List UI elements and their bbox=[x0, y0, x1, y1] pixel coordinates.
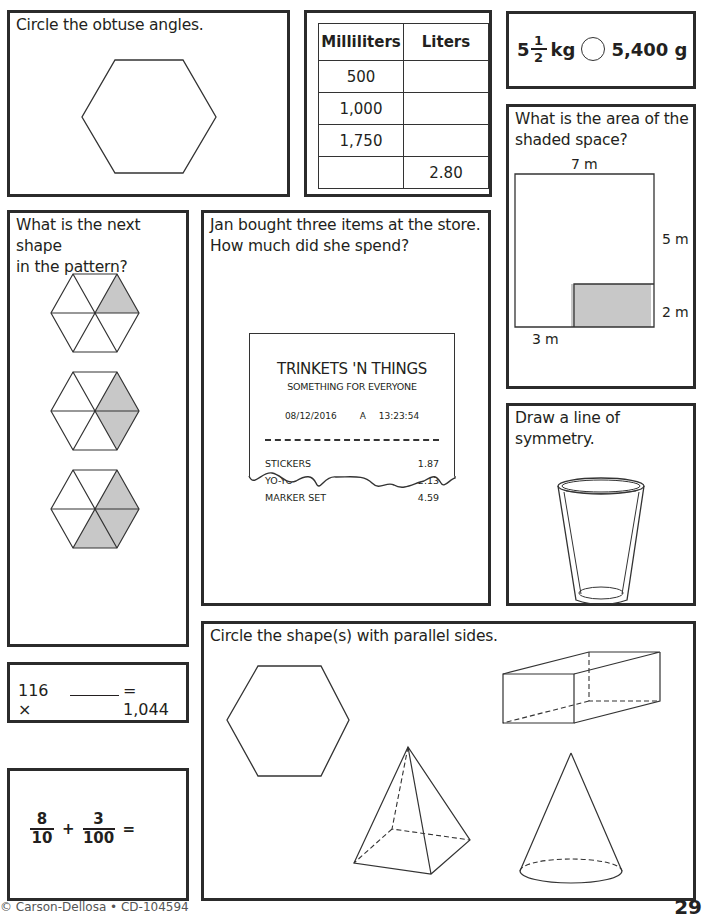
conversion-table-box: Milliliters Liters 500 1,000 1,750 2.80 bbox=[304, 10, 492, 197]
cell-liters[interactable] bbox=[404, 125, 489, 157]
hexagon-2d-shape bbox=[227, 666, 349, 776]
whole-number: 5 bbox=[517, 39, 530, 60]
pattern-hexagon-2 bbox=[51, 372, 139, 450]
label-top: 7 m bbox=[571, 154, 597, 175]
parallel-sides-box: Circle the shape(s) with parallel sides. bbox=[201, 621, 696, 901]
cell-liters[interactable] bbox=[404, 93, 489, 125]
cell-liters: 2.80 bbox=[404, 157, 489, 189]
obtuse-angles-box: Circle the obtuse angles. bbox=[7, 10, 290, 197]
cell-liters[interactable] bbox=[404, 61, 489, 93]
cell-ml[interactable] bbox=[319, 157, 404, 189]
cell-ml: 1,750 bbox=[319, 125, 404, 157]
square-pyramid-shape bbox=[354, 747, 470, 874]
copyright-footer: © Carson-Dellosa • CD-104594 bbox=[0, 900, 189, 914]
pattern-hexagon-1 bbox=[51, 274, 139, 352]
table-row: 2.80 bbox=[319, 157, 489, 189]
table-row: 1,750 bbox=[319, 125, 489, 157]
cone-shape bbox=[520, 753, 622, 883]
compare-mass-box: 5 1 2 kg 5,400 g bbox=[506, 11, 696, 89]
symmetry-box: Draw a line of symmetry. bbox=[506, 403, 696, 606]
shaded-area-box: What is the area of the shaded space? 7 … bbox=[506, 104, 696, 389]
fraction-equation: 8 10 + 3 100 = bbox=[30, 811, 135, 847]
ml-liters-table: Milliliters Liters 500 1,000 1,750 2.80 bbox=[318, 23, 489, 189]
hexagon-shape[interactable] bbox=[10, 13, 293, 200]
multiplication-box: 116 × = 1,044 bbox=[7, 662, 189, 723]
comparison-circle[interactable] bbox=[581, 37, 605, 61]
fraction-b: 3 100 bbox=[83, 811, 115, 847]
page-number: 29 bbox=[674, 895, 702, 918]
header-liters: Liters bbox=[404, 24, 489, 61]
glass-shape[interactable] bbox=[509, 406, 699, 609]
right-value: 5,400 g bbox=[611, 39, 687, 60]
label-right-lower: 2 m bbox=[662, 302, 688, 323]
label-right-upper: 5 m bbox=[662, 229, 688, 250]
fraction-addition-box: 8 10 + 3 100 = bbox=[7, 768, 189, 901]
cell-ml: 1,000 bbox=[319, 93, 404, 125]
hexagon-pattern bbox=[10, 213, 192, 650]
table-row: 500 bbox=[319, 61, 489, 93]
multiply-equation: 116 × = 1,044 bbox=[18, 681, 186, 719]
pattern-hexagon-3 bbox=[51, 470, 139, 548]
rectangular-prism-shape bbox=[503, 652, 660, 723]
fraction: 1 2 bbox=[531, 34, 547, 64]
cell-ml: 500 bbox=[319, 61, 404, 93]
header-milliliters: Milliliters bbox=[319, 24, 404, 61]
parallel-shapes bbox=[204, 624, 699, 904]
equals-sign: = bbox=[123, 820, 136, 838]
unit-kg: kg bbox=[551, 39, 576, 60]
receipt-box: Jan bought three items at the store. How… bbox=[201, 210, 491, 606]
multiply-left: 116 × bbox=[18, 681, 66, 719]
table-row: 1,000 bbox=[319, 93, 489, 125]
receipt-torn-edge bbox=[204, 213, 494, 609]
plus-sign: + bbox=[62, 820, 75, 838]
answer-blank[interactable] bbox=[70, 681, 119, 696]
multiply-right: = 1,044 bbox=[123, 681, 186, 719]
compare-expression: 5 1 2 kg 5,400 g bbox=[517, 34, 687, 64]
label-bottom: 3 m bbox=[532, 329, 558, 350]
fraction-a: 8 10 bbox=[30, 811, 54, 847]
pattern-box: What is the next shape in the pattern? bbox=[7, 210, 189, 647]
